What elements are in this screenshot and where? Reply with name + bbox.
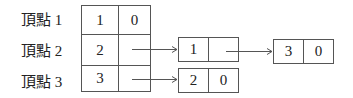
arrows	[0, 0, 353, 98]
